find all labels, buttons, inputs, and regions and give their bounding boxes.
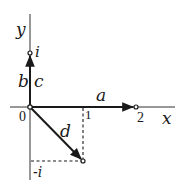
vector-label-d: d [60, 121, 71, 141]
complex-plane-diagram: y x 0 i 1 2 -i a b c d [0, 0, 181, 192]
y-axis-label: y [15, 19, 26, 39]
tick-label-2: 2 [137, 110, 144, 125]
tick-label-minus-i: -i [33, 164, 42, 180]
point-i [28, 51, 32, 55]
vector-label-a: a [96, 85, 106, 105]
point-1-minus-i [81, 159, 85, 163]
vector-label-c: c [34, 71, 44, 91]
vector-label-b: b [18, 71, 29, 91]
point-2 [134, 105, 138, 109]
origin-point [28, 105, 32, 109]
tick-label-1: 1 [85, 107, 92, 122]
origin-label: 0 [19, 109, 26, 124]
tick-label-i: i [35, 43, 40, 61]
x-axis-label: x [162, 108, 172, 128]
vector-d [30, 107, 81, 159]
